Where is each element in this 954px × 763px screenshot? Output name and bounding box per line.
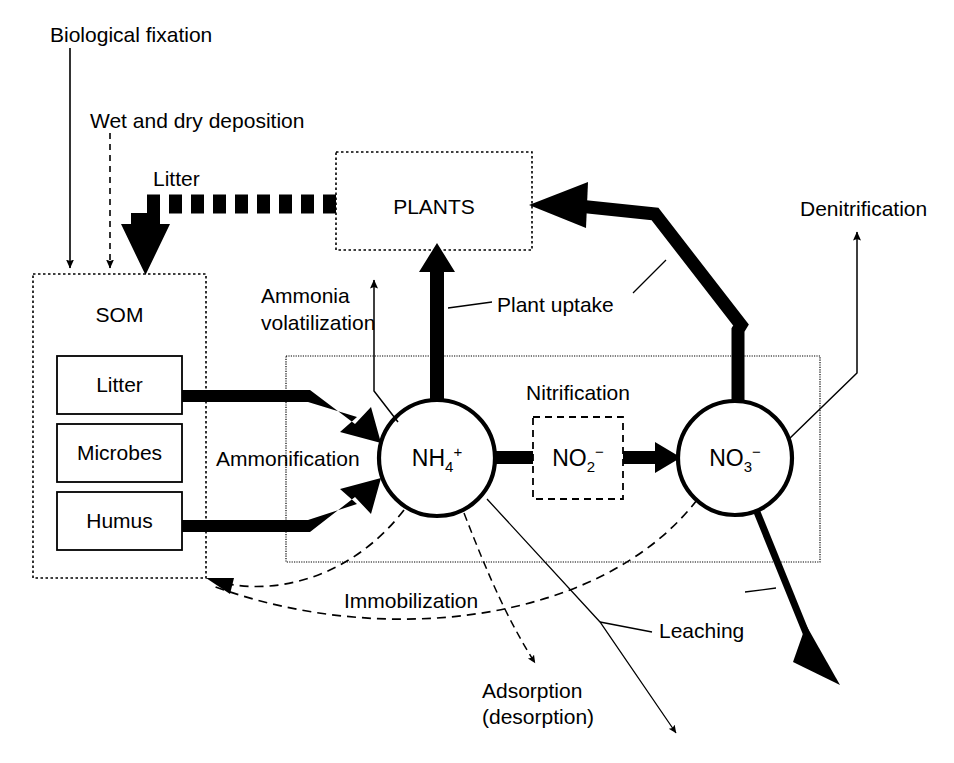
nitrate-base: NO [709,445,744,471]
immobilization-arrowhead [206,578,234,594]
nitrate-superscript: − [752,443,761,460]
nitrite-subscript: 2 [587,458,595,475]
adsorption-label-line2: (desorption) [482,705,594,728]
wet-dry-deposition-label: Wet and dry deposition [90,109,304,132]
diagram-canvas: SOM Litter Microbes Humus PLANTS Biologi… [0,0,954,763]
ammonium-superscript: + [453,443,462,460]
leaching-leader-right [745,588,776,592]
ammonium-base: NH [412,445,445,471]
som-humus-label: Humus [86,509,153,532]
ammonia-volatilization-arrow [374,280,398,422]
adsorption-label-line1: Adsorption [482,679,582,702]
nitrite-base: NO [552,445,587,471]
ammonification-label: Ammonification [216,447,360,470]
plant-uptake-arrowhead [529,182,588,228]
ammonium-subscript: 4 [445,458,453,475]
leaching-leader-left [600,622,652,632]
immobilization-label: Immobilization [344,589,478,612]
plant-uptake-leader-right [633,260,666,293]
som-label: SOM [96,303,144,326]
ammonia-volatilization-label-line2: volatilization [261,311,375,334]
nitrification-arrow-nitrite-to-nitrate [623,442,681,473]
ammonification-arrow-litter [182,390,381,443]
ammonification-arrow-humus [182,478,381,532]
som-microbes-label: Microbes [77,441,162,464]
biological-fixation-label: Biological fixation [50,23,212,46]
plant-uptake-leader-left [448,302,492,308]
nitrite-superscript: − [595,443,604,460]
litter-flux-arrowhead [121,213,170,275]
plants-label: PLANTS [393,195,475,218]
leaching-label: Leaching [659,619,744,642]
litter-flux-label: Litter [153,167,200,190]
adsorption-arrow [464,513,535,663]
nitrate-subscript: 3 [744,458,752,475]
plant-uptake-arrow-ammonium [419,243,455,400]
nitrification-label: Nitrification [526,381,630,404]
som-litter-label: Litter [96,373,143,396]
leaching-arrowhead [793,625,840,685]
ammonia-volatilization-label-line1: Ammonia [261,284,350,307]
nitrification-arrow-ammonium-to-nitrite [494,451,533,464]
nitrogen-cycle-diagram: SOM Litter Microbes Humus PLANTS Biologi… [0,0,954,763]
denitrification-label: Denitrification [800,197,927,220]
denitrification-arrow [788,232,857,440]
plant-uptake-label: Plant uptake [497,293,614,316]
